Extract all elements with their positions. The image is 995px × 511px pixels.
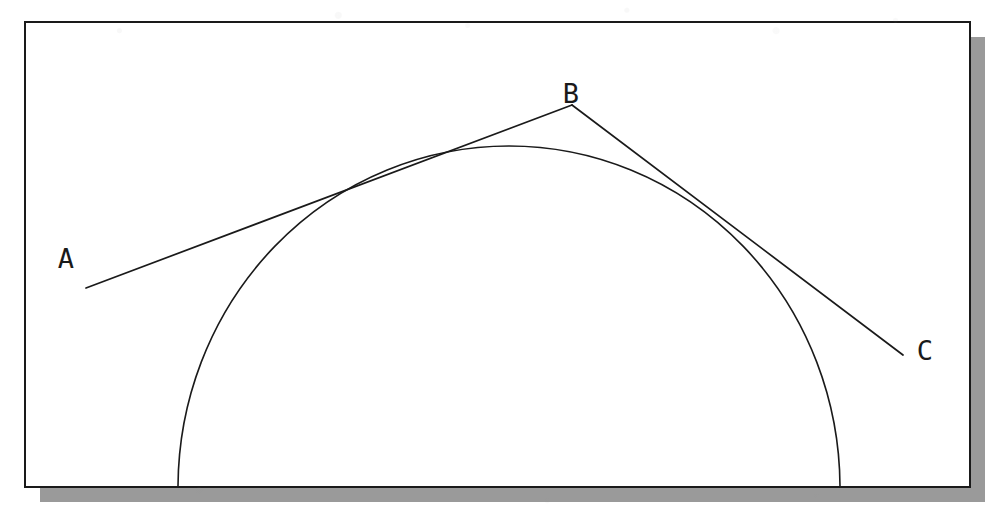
- point-label-b: B: [563, 78, 579, 109]
- geometry-figure: A B C: [0, 0, 995, 511]
- point-label-a: A: [58, 243, 74, 274]
- figure-border: [25, 22, 970, 487]
- point-label-c: C: [917, 335, 933, 366]
- figure-canvas: A B C: [0, 0, 995, 511]
